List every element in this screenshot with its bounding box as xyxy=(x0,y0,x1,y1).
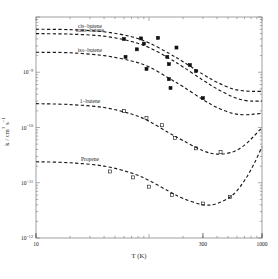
marker-iso-butene xyxy=(124,55,127,58)
series-label-Propene: Propene xyxy=(81,156,100,162)
marker-iso-butene xyxy=(167,78,170,81)
marker-trans-butene xyxy=(194,70,197,73)
curve-1-butene xyxy=(36,104,262,154)
marker-iso-butene xyxy=(169,86,172,89)
marker-cis-butene xyxy=(156,36,159,39)
marker-Propene xyxy=(131,176,134,179)
data-point-markers xyxy=(108,36,231,205)
x-axis-label: T (K) xyxy=(0,252,278,259)
curve-Propene xyxy=(36,147,262,206)
marker-cis-butene xyxy=(140,37,143,40)
y-axis-label-k: k / cm xyxy=(3,129,10,146)
series-curves xyxy=(36,29,262,205)
marker-1-butene xyxy=(145,116,148,119)
y-tick-label: 10−12 xyxy=(21,234,33,241)
y-axis-label: k / cm3 s−1 xyxy=(3,102,10,162)
y-axis-label-exp1: 3 xyxy=(1,127,6,129)
series-label-iso-butene: iso−butene xyxy=(78,47,103,53)
series-label-trans-butene: trans−butene xyxy=(76,27,105,33)
y-axis-label-exp2: −1 xyxy=(1,117,6,122)
x-axis-ticks xyxy=(36,17,262,238)
y-tick-label: 10−10 xyxy=(21,123,33,130)
marker-Propene xyxy=(108,170,111,173)
chart-canvas: cis−butenetrans−buteneiso−butene1−butene… xyxy=(0,0,278,279)
y-tick-label: 10−9 xyxy=(23,68,33,75)
marker-1-butene xyxy=(160,124,163,127)
y-tick-label: 10−11 xyxy=(21,179,33,186)
x-tick-label: 10 xyxy=(33,241,39,247)
marker-cis-butene xyxy=(188,64,191,67)
marker-trans-butene xyxy=(135,48,138,51)
series-inline-labels: cis−butenetrans−buteneiso−butene1−butene… xyxy=(76,23,105,163)
marker-trans-butene xyxy=(122,37,125,40)
marker-trans-butene xyxy=(167,63,170,66)
y-axis-ticks xyxy=(36,17,262,238)
marker-iso-butene xyxy=(145,67,148,70)
marker-cis-butene xyxy=(142,42,145,45)
x-tick-label: 300 xyxy=(199,241,208,247)
tick-label-texts: 10300100010−1210−1110−1010−9 xyxy=(21,68,268,247)
marker-1-butene xyxy=(122,109,125,112)
x-tick-label: 1000 xyxy=(257,241,268,247)
marker-cis-butene xyxy=(175,46,178,49)
marker-iso-butene xyxy=(201,97,204,100)
plot-frame xyxy=(36,17,262,238)
figure-container: cis−butenetrans−buteneiso−butene1−butene… xyxy=(0,0,278,279)
series-label-1-butene: 1−butene xyxy=(80,98,101,104)
marker-trans-butene xyxy=(166,55,169,58)
marker-Propene xyxy=(148,185,151,188)
curve-cis-butene xyxy=(36,29,262,91)
y-axis-label-s: s xyxy=(3,122,10,126)
curve-iso-butene xyxy=(36,52,262,115)
marker-1-butene xyxy=(219,151,222,154)
